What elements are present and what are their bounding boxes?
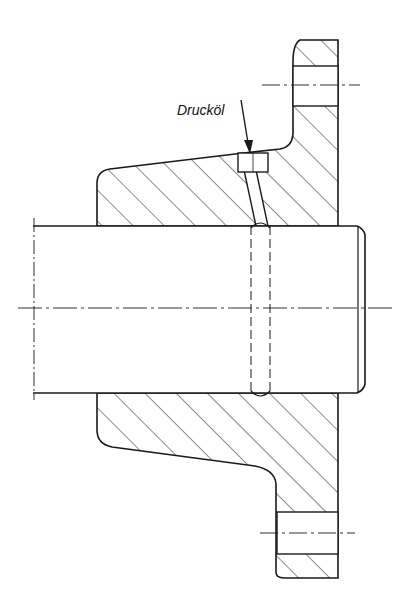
upper-hub-section	[97, 40, 338, 226]
oil-inlet-arrow	[241, 100, 253, 154]
oil-inlet-label: Drucköl	[177, 102, 224, 118]
shaft	[33, 218, 365, 400]
lower-hub-section	[97, 393, 338, 578]
technical-drawing	[0, 0, 400, 612]
upper-bolt-hole	[293, 66, 338, 106]
